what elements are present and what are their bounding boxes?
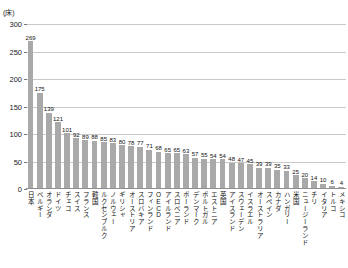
x-axis-category-label: トルコ xyxy=(329,191,336,265)
bar: 63 xyxy=(183,154,189,189)
x-axis-label-slot: フランス xyxy=(81,191,90,265)
bar: 65 xyxy=(174,153,180,189)
bar-value-label: 39 xyxy=(256,161,263,167)
x-axis-label-slot: ギリシャ xyxy=(117,191,126,265)
bar-chart: (床) 050100150200250300 26917513912110192… xyxy=(0,0,348,268)
bar-value-label: 57 xyxy=(192,151,199,157)
x-axis-label-slot: スイス xyxy=(72,191,81,265)
x-axis-label-slot: オランダ xyxy=(44,191,53,265)
bar-value-label: 83 xyxy=(109,137,116,143)
bar-slot: 54 xyxy=(218,24,227,189)
bar: 39 xyxy=(265,168,271,189)
x-axis-label-slot: ポルトガル xyxy=(200,191,209,265)
bar: 25 xyxy=(293,175,299,189)
x-axis-label-slot: 英国 xyxy=(218,191,227,265)
bar-slot: 71 xyxy=(145,24,154,189)
y-axis-tick-label: 100 xyxy=(9,130,22,139)
bar-value-label: 85 xyxy=(100,136,107,142)
bar: 85 xyxy=(101,142,107,189)
bar: 68 xyxy=(156,152,162,189)
x-axis-category-label: ハンガリー xyxy=(283,191,290,265)
x-axis-label-slot: 米国 xyxy=(291,191,300,265)
x-axis-label-slot: スロベニア xyxy=(172,191,181,265)
x-axis-label-slot: オーストリア xyxy=(127,191,136,265)
x-axis-category-label: スペイン xyxy=(265,191,272,265)
bar: 89 xyxy=(82,140,88,189)
y-axis-tick-mark xyxy=(24,189,27,190)
x-axis-category-label: メキシコ xyxy=(338,191,345,265)
y-axis-unit-label: (床) xyxy=(3,7,15,17)
x-axis-category-label: ポルトガル xyxy=(201,191,208,265)
x-axis-category-label: チリ xyxy=(310,191,317,265)
x-axis-label-slot: スロバキア xyxy=(136,191,145,265)
bar-slot: 47 xyxy=(236,24,245,189)
x-axis-label-slot: 日本 xyxy=(26,191,35,265)
x-axis-category-label: ドイツ xyxy=(54,191,61,265)
x-axis-label-slot: エストニア xyxy=(209,191,218,265)
x-axis-category-label: チェコ xyxy=(64,191,71,265)
bar: 45 xyxy=(247,164,253,189)
bar: 35 xyxy=(274,170,280,189)
bar: 65 xyxy=(165,153,171,189)
bar-value-label: 121 xyxy=(53,116,63,122)
bar-value-label: 77 xyxy=(137,140,144,146)
x-axis-label-slot: メキシコ xyxy=(337,191,346,265)
bar: 121 xyxy=(55,122,61,189)
bar-slot: 10 xyxy=(319,24,328,189)
x-axis-label-slot: アイルランド xyxy=(163,191,172,265)
bar-value-label: 92 xyxy=(73,132,80,138)
bar-slot: 121 xyxy=(53,24,62,189)
x-axis-label-slot: トルコ xyxy=(328,191,337,265)
bar-slot: 68 xyxy=(154,24,163,189)
bar-slot: 77 xyxy=(136,24,145,189)
bar-value-label: 71 xyxy=(146,143,153,149)
bar: 55 xyxy=(201,159,207,189)
bar-slot: 55 xyxy=(200,24,209,189)
bar-slot: 6 xyxy=(328,24,337,189)
bar: 71 xyxy=(146,150,152,189)
bar-value-label: 78 xyxy=(128,140,135,146)
bar-slot: 63 xyxy=(181,24,190,189)
bar-value-label: 25 xyxy=(292,169,299,175)
x-axis-label-slot: フィンランド xyxy=(145,191,154,265)
x-axis-label-slot: ドイツ xyxy=(53,191,62,265)
x-axis-label-slot: ルクセンブルク xyxy=(99,191,108,265)
bar-slot: 101 xyxy=(63,24,72,189)
bar: 54 xyxy=(210,159,216,189)
x-axis-category-label: アイスランド xyxy=(228,191,235,265)
bar-value-label: 80 xyxy=(119,139,126,145)
bar-slot: 92 xyxy=(72,24,81,189)
bar-slot: 85 xyxy=(99,24,108,189)
bar-slot: 25 xyxy=(291,24,300,189)
bar: 101 xyxy=(64,133,70,189)
bar-value-label: 35 xyxy=(274,163,281,169)
bar: 57 xyxy=(192,158,198,189)
bar-value-label: 33 xyxy=(283,164,290,170)
x-axis-label-slot: オーストラリア xyxy=(255,191,264,265)
x-axis-label-slot: OECD xyxy=(154,191,163,265)
x-axis-category-label: デンマーク xyxy=(192,191,199,265)
x-axis-category-label: OECD xyxy=(155,191,162,265)
bar-value-label: 54 xyxy=(219,153,226,159)
bar: 175 xyxy=(37,93,43,189)
x-axis-label-slot: スペイン xyxy=(264,191,273,265)
y-axis-tick-label: 200 xyxy=(9,75,22,84)
x-axis-category-label: イスラエル xyxy=(246,191,253,265)
bar-value-label: 54 xyxy=(210,153,217,159)
x-axis-label-slot: アイスランド xyxy=(227,191,236,265)
y-axis-tick-label: 0 xyxy=(18,185,22,194)
bar-slot: 65 xyxy=(163,24,172,189)
bar-value-label: 269 xyxy=(26,35,36,41)
bar: 48 xyxy=(229,163,235,189)
bar-slot: 88 xyxy=(90,24,99,189)
x-axis-label-slot: イスラエル xyxy=(245,191,254,265)
x-axis-category-label: 韓国 xyxy=(91,191,98,265)
bar-value-label: 65 xyxy=(164,147,171,153)
bar: 269 xyxy=(28,41,34,189)
bar: 78 xyxy=(128,146,134,189)
x-axis-category-label: カナダ xyxy=(274,191,281,265)
bar-slot: 39 xyxy=(264,24,273,189)
bar-value-label: 55 xyxy=(201,152,208,158)
x-axis-category-label: ノルウェー xyxy=(109,191,116,265)
x-axis-category-label: オーストラリア xyxy=(256,191,263,265)
